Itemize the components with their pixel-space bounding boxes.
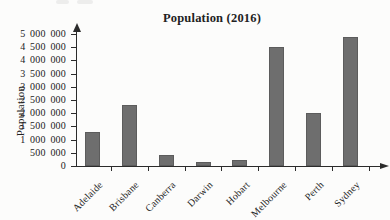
chart-title: Population (2016)	[76, 11, 348, 26]
bar-melbourne	[269, 47, 284, 166]
y-tick	[71, 34, 76, 35]
y-tick	[71, 126, 76, 127]
bar-adelaide	[85, 132, 100, 166]
x-tick	[258, 166, 259, 171]
x-axis-arrowhead	[380, 163, 389, 169]
y-tick	[71, 74, 76, 75]
y-tick	[71, 47, 76, 48]
bar-darwin	[196, 162, 211, 166]
x-tick	[221, 166, 222, 171]
y-tick-label: 4 500 000	[0, 41, 66, 53]
population-bar-chart: Population (2016) Population 0500 0001 0…	[0, 0, 390, 220]
bar-hobart	[232, 160, 247, 166]
y-tick-label: 3 000 000	[0, 81, 66, 93]
y-axis-line	[76, 31, 77, 167]
x-tick	[148, 166, 149, 171]
x-tick	[111, 166, 112, 171]
y-axis-arrowhead	[73, 23, 81, 32]
cropped-text-artifact	[56, 0, 69, 4]
y-tick	[71, 60, 76, 61]
y-tick-label: 500 000	[0, 147, 66, 159]
y-tick-label: 1 500 000	[0, 120, 66, 132]
y-tick-label: 2 500 000	[0, 94, 66, 106]
x-tick	[369, 166, 370, 171]
y-tick	[71, 153, 76, 154]
y-tick	[71, 87, 76, 88]
x-tick-label-adelaide: Adelaide	[19, 179, 105, 220]
bar-brisbane	[122, 105, 137, 166]
y-tick	[71, 100, 76, 101]
x-axis-line	[76, 166, 381, 167]
y-tick-label: 3 500 000	[0, 68, 66, 80]
cropped-text-artifact	[77, 0, 93, 4]
x-tick	[332, 166, 333, 171]
y-tick-label: 1 000 000	[0, 134, 66, 146]
y-tick	[71, 166, 76, 167]
y-tick-label: 4 000 000	[0, 54, 66, 66]
x-tick	[185, 166, 186, 171]
bar-perth	[306, 113, 321, 166]
y-tick	[71, 140, 76, 141]
x-tick	[295, 166, 296, 171]
y-tick-label: 5 000 000	[0, 28, 66, 40]
y-tick-label: 2 000 000	[0, 107, 66, 119]
bar-sydney	[343, 37, 358, 166]
bar-canberra	[159, 155, 174, 166]
y-tick	[71, 113, 76, 114]
y-tick-label: 0	[0, 160, 66, 172]
